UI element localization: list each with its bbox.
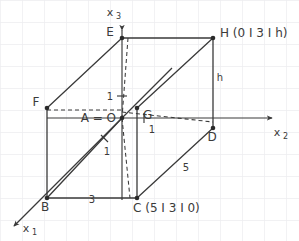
x2-axis-label-text: x [274,126,281,139]
vertex-dot-A [120,116,125,121]
x3-axis-label-sub: 3 [116,12,121,21]
measurement-edge-cd: 5 [183,162,189,173]
measurement-unit-x3: 1 [107,91,113,102]
vertex-label-E: E [106,25,114,39]
x3-axis-label-text: x [107,6,114,19]
measurement-edge-bc: 3 [89,194,95,205]
x1-axis-label-sub: 1 [32,228,37,237]
x1-axis-label-text: x [23,222,30,235]
measurement-unit-x2: 1 [149,124,155,135]
geometry-figure: E F G A = O D B H (0 I 3 I h) C (5 I 3 I… [0,0,299,241]
coordinate-label-C: C (5 I 3 I 0) [133,201,200,215]
measurement-edge-hd: h [217,72,223,83]
vertex-dot-F [45,106,50,111]
vertex-label-G: G [143,108,152,122]
coordinate-label-H: H (0 I 3 I h) [220,26,287,40]
vertex-dot-E [120,36,125,41]
measurement-unit-x1: 1 [104,146,110,157]
figure-canvas: E F G A = O D B H (0 I 3 I h) C (5 I 3 I… [0,0,299,241]
vertex-label-F: F [33,95,40,109]
vertex-label-A-origin: A = O [81,111,116,125]
vertex-label-D: D [207,130,216,144]
vertex-dot-H [211,36,216,41]
vertex-label-B: B [41,200,49,214]
vertex-dot-G [135,106,140,111]
vertex-dot-C [135,196,140,201]
x2-axis-label-sub: 2 [283,132,288,141]
